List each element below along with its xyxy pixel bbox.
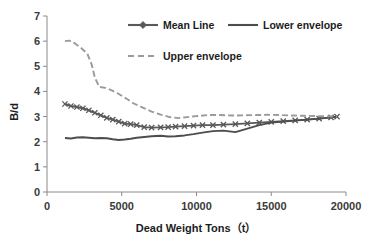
x-tick-label: 15000 bbox=[256, 200, 287, 212]
x-axis-title: Dead Weight Tons（t） bbox=[136, 222, 257, 234]
x-tick-label: 0 bbox=[44, 200, 50, 212]
y-axis-title: B/d bbox=[8, 103, 20, 121]
y-tick-label: 7 bbox=[34, 10, 40, 22]
y-tick-label: 5 bbox=[34, 60, 40, 72]
y-tick-label: 2 bbox=[34, 136, 40, 148]
y-tick-label: 1 bbox=[34, 161, 40, 173]
y-tick-label: 3 bbox=[34, 111, 40, 123]
x-tick-label: 10000 bbox=[181, 200, 212, 212]
plot-background bbox=[47, 16, 346, 192]
y-tick-label: 0 bbox=[34, 186, 40, 198]
chart-container: 01234567 05000100001500020000 B/d Dead W… bbox=[0, 0, 369, 240]
y-tick-label: 4 bbox=[34, 85, 41, 97]
x-axis-tick-labels: 05000100001500020000 bbox=[44, 200, 361, 212]
legend-label: Mean Line bbox=[163, 19, 215, 31]
legend-label: Lower envelope bbox=[263, 19, 343, 31]
y-axis-tick-labels: 01234567 bbox=[34, 10, 41, 198]
x-tick-label: 5000 bbox=[110, 200, 134, 212]
x-tick-label: 20000 bbox=[331, 200, 362, 212]
chart-svg: 01234567 05000100001500020000 B/d Dead W… bbox=[0, 0, 369, 240]
y-tick-label: 6 bbox=[34, 35, 40, 47]
legend-label: Upper envelope bbox=[163, 50, 242, 62]
